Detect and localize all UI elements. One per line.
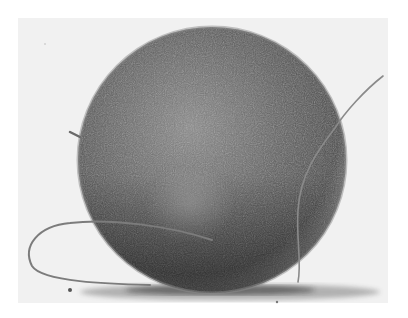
micrograph-image bbox=[0, 0, 408, 318]
sphere bbox=[78, 27, 346, 295]
